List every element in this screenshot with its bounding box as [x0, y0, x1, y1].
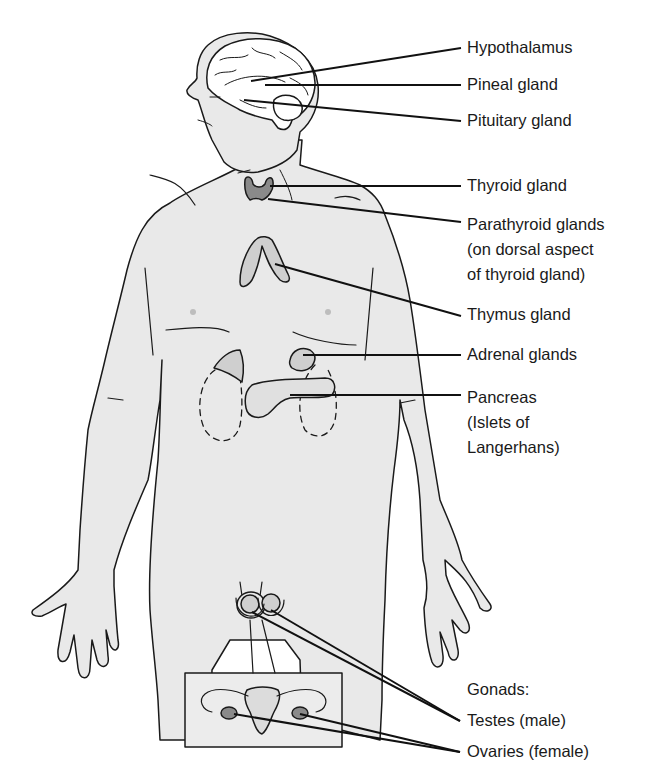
- label-thymus-gland: Thymus gland: [467, 305, 571, 324]
- label-testes: Testes (male): [467, 711, 566, 730]
- body-silhouette: [32, 140, 491, 740]
- label-ovaries: Ovaries (female): [467, 742, 589, 761]
- ovary-left: [221, 707, 237, 719]
- label-hypothalamus: Hypothalamus: [467, 38, 572, 57]
- cerebellum: [273, 95, 302, 120]
- label-thyroid-gland: Thyroid gland: [467, 176, 567, 195]
- label-gonads: Gonads:: [467, 680, 529, 699]
- ovary-right: [292, 707, 308, 719]
- label-pineal-gland: Pineal gland: [467, 75, 558, 94]
- label-pancreas: Pancreas (Islets of Langerhans): [467, 385, 560, 460]
- label-pituitary-gland: Pituitary gland: [467, 111, 572, 130]
- label-parathyroid-glands: Parathyroid glands (on dorsal aspect of …: [467, 212, 605, 287]
- label-adrenal-glands: Adrenal glands: [467, 345, 577, 364]
